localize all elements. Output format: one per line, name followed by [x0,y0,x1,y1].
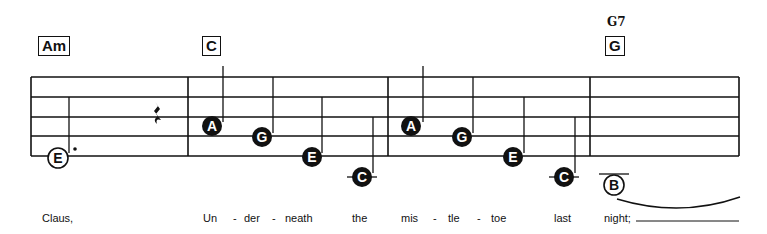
lyric-syllable: der [244,212,260,224]
note-e: E [503,147,523,167]
svg-text:A: A [406,118,416,134]
chord-name-above: G7 [607,15,626,29]
music-staff: EAGECAGECB [0,0,767,234]
chord-box: G [605,36,625,56]
svg-text:A: A [207,118,217,134]
note-e: E [48,147,77,168]
lyric-hyphen: - [433,212,437,224]
lyric-syllable: toe [491,212,506,224]
staff-lines [31,77,739,156]
svg-text:G: G [257,129,268,145]
svg-text:B: B [609,177,619,193]
lyric-syllable: night; [604,212,631,224]
note-g: G [252,127,272,147]
lyric-syllable: neath [285,212,313,224]
lyric-hyphen: - [477,212,481,224]
svg-text:C: C [357,169,367,185]
chord-box: Am [38,36,70,56]
tie-curve [617,197,740,208]
note-a: A [401,116,421,136]
note-e: E [302,147,322,167]
svg-text:E: E [307,149,316,165]
lyric-hyphen: - [233,212,237,224]
lyric-syllable: Un [203,212,217,224]
lyric-syllable: mis [401,212,418,224]
lyric-hyphen: - [272,212,276,224]
svg-text:E: E [508,149,517,165]
note-stems [69,66,575,173]
lyric-syllable: tle [448,212,460,224]
note-a: A [202,116,222,136]
lyric-syllable: Claus, [42,212,73,224]
svg-text:E: E [53,150,62,166]
note-b: B [599,174,629,195]
lyric-syllable: last [554,212,571,224]
quarter-rest-icon [154,102,161,124]
svg-text:G: G [457,129,468,145]
note-g: G [452,127,472,147]
lyric-syllable: the [352,212,367,224]
svg-text:C: C [559,169,569,185]
chord-box: C [202,36,221,56]
